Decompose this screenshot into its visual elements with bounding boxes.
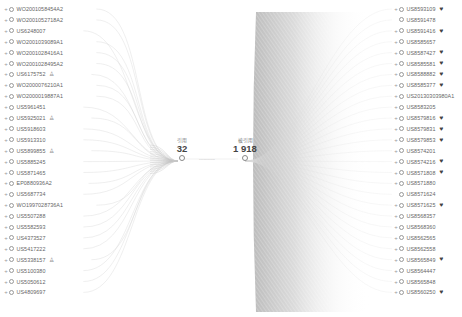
patent-number[interactable]: US5961451 <box>17 104 46 110</box>
cited-by-patent-item[interactable]: +US8583205 <box>394 102 435 113</box>
cited-by-patent-item[interactable]: +US8585657 <box>394 36 435 47</box>
expand-icon[interactable]: + <box>394 115 398 121</box>
expand-icon[interactable]: + <box>4 279 8 285</box>
node-circle-icon[interactable] <box>399 203 404 208</box>
citing-patent-item[interactable]: +US4809697 <box>4 287 45 298</box>
patent-number[interactable]: US5687734 <box>17 191 46 197</box>
cited-by-patent-item[interactable]: +US8568360 <box>394 222 435 233</box>
node-circle-icon[interactable] <box>9 7 14 12</box>
patent-number[interactable]: US8583205 <box>407 104 436 110</box>
node-circle-icon[interactable] <box>9 203 14 208</box>
expand-icon[interactable]: + <box>394 28 398 34</box>
expand-icon[interactable]: + <box>394 268 398 274</box>
expand-icon[interactable]: + <box>4 268 8 274</box>
citing-patent-item[interactable]: +US5582593 <box>4 222 45 233</box>
patent-number[interactable]: US8574216 <box>407 159 436 165</box>
node-circle-icon[interactable] <box>399 181 404 186</box>
expand-icon[interactable]: + <box>394 213 398 219</box>
expand-icon[interactable]: + <box>394 235 398 241</box>
node-circle-icon[interactable] <box>9 137 14 142</box>
node-circle-icon[interactable] <box>9 28 14 33</box>
cited-by-patent-item[interactable]: +US8571880 <box>394 178 435 189</box>
node-circle-icon[interactable] <box>9 126 14 131</box>
cited-by-patent-item[interactable]: +US20130303980A1 <box>394 91 454 102</box>
node-circle-icon[interactable] <box>9 148 14 153</box>
patent-number[interactable]: WO2001028416A1 <box>17 50 64 56</box>
expand-icon[interactable]: + <box>394 180 398 186</box>
node-circle-icon[interactable] <box>9 116 14 121</box>
expand-icon[interactable]: + <box>394 224 398 230</box>
node-circle-icon[interactable] <box>9 72 14 77</box>
expand-icon[interactable]: + <box>4 224 8 230</box>
node-circle-icon[interactable] <box>9 39 14 44</box>
cited-by-patent-item[interactable]: +US8574201 <box>394 145 435 156</box>
node-circle-icon[interactable] <box>9 225 14 230</box>
patent-number[interactable]: US8560250 <box>407 289 436 295</box>
citing-patent-item[interactable]: +US5871465 <box>4 167 45 178</box>
citing-patent-item[interactable]: +US6248007 <box>4 25 45 36</box>
node-circle-icon[interactable] <box>399 159 404 164</box>
citing-patent-item[interactable]: +US5507288 <box>4 211 45 222</box>
patent-number[interactable]: WO2000019887A1 <box>17 93 64 99</box>
patent-number[interactable]: US8593109 <box>407 6 436 12</box>
node-circle-icon[interactable] <box>9 50 14 55</box>
patent-number[interactable]: US5918603 <box>17 126 46 132</box>
node-circle-icon[interactable] <box>399 170 404 175</box>
node-circle-icon[interactable] <box>9 246 14 251</box>
expand-icon[interactable]: + <box>394 71 398 77</box>
cited-by-patent-item[interactable]: +US8562565 <box>394 232 435 243</box>
patent-number[interactable]: US8568357 <box>407 213 436 219</box>
node-circle-icon[interactable] <box>399 235 404 240</box>
patent-number[interactable]: WO2001028495A2 <box>17 61 64 67</box>
patent-number[interactable]: US8579853 <box>407 137 436 143</box>
patent-number[interactable]: US20130303980A1 <box>407 93 455 99</box>
node-circle-icon[interactable] <box>399 192 404 197</box>
patent-number[interactable]: US8588882 <box>407 71 436 77</box>
patent-number[interactable]: US8562565 <box>407 235 436 241</box>
expand-icon[interactable]: + <box>394 289 398 295</box>
node-circle-icon[interactable] <box>399 137 404 142</box>
cited-by-patent-item[interactable]: +US8565849♥ <box>394 254 443 265</box>
patent-number[interactable]: US5050612 <box>17 279 46 285</box>
expand-icon[interactable]: + <box>394 39 398 45</box>
expand-icon[interactable]: + <box>4 191 8 197</box>
node-circle-icon[interactable] <box>9 17 14 22</box>
citing-patent-item[interactable]: +US5961451 <box>4 102 45 113</box>
expand-icon[interactable]: + <box>394 170 398 176</box>
patent-number[interactable]: US6248007 <box>17 28 46 34</box>
cited-by-patent-item[interactable]: +US8560250♥ <box>394 287 443 298</box>
expand-icon[interactable]: + <box>4 137 8 143</box>
cited-by-patent-item[interactable]: +US8579831♥ <box>394 123 443 134</box>
citing-patent-item[interactable]: +WO2000019887A1 <box>4 91 63 102</box>
cited-by-patent-item[interactable]: +US8588882♥ <box>394 69 443 80</box>
node-circle-icon[interactable] <box>9 235 14 240</box>
expand-icon[interactable]: + <box>394 93 398 99</box>
patent-number[interactable]: US4809697 <box>17 289 46 295</box>
node-circle-icon[interactable] <box>399 17 404 22</box>
cited-by-patent-item[interactable]: +US8579816♥ <box>394 113 443 124</box>
expand-icon[interactable]: + <box>394 61 398 67</box>
cited-by-patent-item[interactable]: +US8571808♥ <box>394 167 443 178</box>
node-circle-icon[interactable] <box>399 246 404 251</box>
expand-icon[interactable]: + <box>4 28 8 34</box>
node-circle-icon[interactable] <box>9 290 14 295</box>
patent-number[interactable]: EP0880936A2 <box>17 180 52 186</box>
citing-patent-item[interactable]: +US5417222 <box>4 243 45 254</box>
references-node[interactable]: 引用 32 <box>172 139 192 161</box>
citing-patent-item[interactable]: +US6175752♙ <box>4 69 55 80</box>
expand-icon[interactable]: + <box>4 213 8 219</box>
expand-icon[interactable]: + <box>4 257 8 263</box>
patent-number[interactable]: US8591478 <box>407 17 436 23</box>
citing-patent-item[interactable]: +US5925021♙ <box>4 113 55 124</box>
node-circle-icon[interactable] <box>399 105 404 110</box>
patent-number[interactable]: US5899855 <box>17 148 46 154</box>
patent-number[interactable]: WO2001039089A1 <box>17 39 64 45</box>
node-circle-icon[interactable] <box>399 279 404 284</box>
expand-icon[interactable]: + <box>394 202 398 208</box>
node-circle-icon[interactable] <box>9 257 14 262</box>
citing-patent-item[interactable]: +US5885245 <box>4 156 45 167</box>
node-circle-icon[interactable] <box>399 214 404 219</box>
expand-icon[interactable]: + <box>4 104 8 110</box>
node-circle-icon[interactable] <box>399 116 404 121</box>
citing-patent-item[interactable]: +US5687734 <box>4 189 45 200</box>
